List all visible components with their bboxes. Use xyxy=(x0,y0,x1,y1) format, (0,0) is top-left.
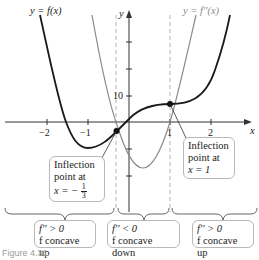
region-box-right: f'' > 0 f concave up xyxy=(192,220,254,248)
brace-right xyxy=(172,208,257,220)
second-derivative-label: y = f''(x) xyxy=(183,5,219,16)
callout-left-x-eq: x = − xyxy=(54,185,78,196)
x-tick-label-neg2: −2 xyxy=(39,127,50,138)
x-tick-label-1: 1 xyxy=(167,127,172,138)
brace-left xyxy=(5,208,114,220)
second-derivative-curve xyxy=(92,15,196,168)
callout-left-line2: point at xyxy=(54,171,100,183)
y-tick-label-10: 10 xyxy=(113,90,123,101)
callout-right-line2: point at xyxy=(188,152,230,164)
region-left-condition: f'' > 0 xyxy=(39,223,91,235)
inflection-point-left xyxy=(114,128,120,134)
callout-inflection-left: Inflection point at x = − 1 3 xyxy=(49,156,105,202)
callout-inflection-right: Inflection point at x = 1 xyxy=(183,137,235,179)
callout-right-line1: Inflection xyxy=(188,140,230,152)
y-axis-label: y xyxy=(119,8,124,19)
x-tick-label-neg1: −1 xyxy=(80,127,91,138)
region-right-condition: f'' > 0 xyxy=(197,223,249,235)
fraction-one-third: 1 3 xyxy=(81,183,87,200)
region-middle-concavity: f concave down xyxy=(112,235,175,259)
callout-right-line3: x = 1 xyxy=(188,164,230,176)
y-axis-arrow-icon xyxy=(126,10,132,18)
brace-middle xyxy=(118,208,169,220)
region-right-concavity: f concave up xyxy=(197,235,249,259)
region-middle-condition: f'' < 0 xyxy=(112,223,175,235)
callout-left-line3: x = − 1 3 xyxy=(54,183,100,200)
figure-caption: Figure 4.31 xyxy=(2,248,48,258)
f-curve-label: y = f(x) xyxy=(30,5,62,16)
callout-right-leader xyxy=(170,104,186,138)
region-box-left: f'' > 0 f concave up xyxy=(34,220,96,248)
x-axis-label: x xyxy=(250,125,255,136)
fraction-denominator: 3 xyxy=(81,192,87,200)
callout-left-line1: Inflection xyxy=(54,159,100,171)
f-curve xyxy=(40,15,230,148)
region-box-middle: f'' < 0 f concave down xyxy=(107,220,180,248)
